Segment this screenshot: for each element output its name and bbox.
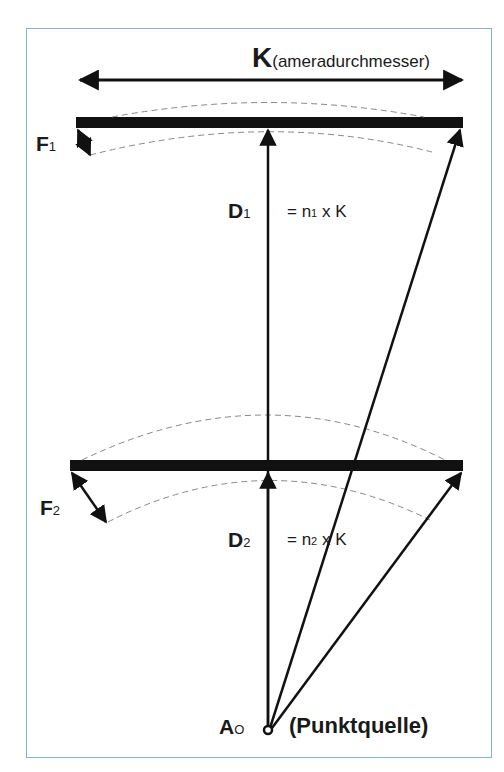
diag-ray-2 (272, 473, 461, 728)
f2-arrow (72, 473, 106, 522)
screen-2-bar (70, 460, 463, 471)
point-source (264, 726, 272, 734)
punktquelle-label: (Punktquelle) (289, 713, 428, 739)
screen-1-bar (76, 117, 463, 128)
f1-arrow (78, 130, 90, 155)
optics-diagram (0, 0, 504, 772)
d1-label: D1 (228, 199, 250, 223)
d2-label: D2 (228, 528, 250, 552)
f2-label: F2 (40, 496, 60, 520)
width-label: K(ameradurchmesser) (252, 42, 430, 74)
d2-equation: = n2 x K (287, 530, 347, 550)
source-label: AO (219, 715, 244, 739)
d1-equation: = n1 x K (287, 202, 347, 222)
f1-label: F1 (36, 132, 56, 156)
